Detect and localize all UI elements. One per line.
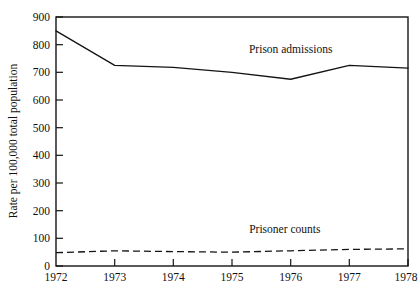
y-tick-label-200: 200 — [33, 205, 51, 217]
y-tick-label-800: 800 — [33, 39, 51, 51]
series-label-prison-admissions: Prison admissions — [249, 43, 333, 55]
chart-canvas: 900 800 700 600 500 400 300 200 100 0 19… — [0, 0, 418, 302]
series-label-prisoner-counts: Prisoner counts — [249, 223, 321, 235]
x-tick-label-1973: 1973 — [103, 271, 126, 283]
plot-frame — [56, 17, 408, 266]
y-axis-ticks — [56, 17, 63, 266]
x-tick-label-1975: 1975 — [221, 271, 244, 283]
x-axis-tick-labels: 1972 1973 1974 1975 1976 1977 1978 — [45, 271, 418, 283]
x-tick-label-1978: 1978 — [395, 271, 418, 283]
x-tick-label-1974: 1974 — [162, 271, 185, 283]
y-tick-label-700: 700 — [33, 66, 51, 78]
series-line-prison-admissions — [56, 31, 408, 79]
x-axis-ticks — [115, 259, 408, 266]
y-tick-label-900: 900 — [33, 11, 51, 23]
y-axis-tick-labels: 900 800 700 600 500 400 300 200 100 0 — [33, 11, 51, 272]
x-tick-label-1977: 1977 — [338, 271, 361, 283]
y-tick-label-100: 100 — [33, 232, 51, 244]
y-tick-label-400: 400 — [33, 149, 51, 161]
line-chart: 900 800 700 600 500 400 300 200 100 0 19… — [0, 0, 418, 302]
y-tick-label-500: 500 — [33, 122, 51, 134]
y-tick-label-300: 300 — [33, 177, 51, 189]
x-tick-label-1976: 1976 — [279, 271, 302, 283]
y-tick-label-600: 600 — [33, 94, 51, 106]
y-axis-title: Rate per 100,000 total population — [7, 64, 20, 219]
series-line-prisoner-counts — [56, 249, 408, 253]
x-tick-label-1972: 1972 — [45, 271, 68, 283]
